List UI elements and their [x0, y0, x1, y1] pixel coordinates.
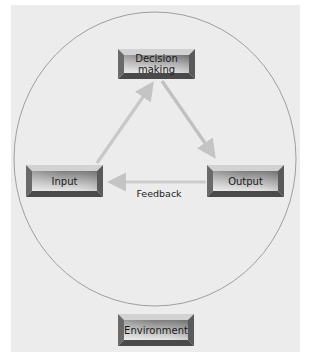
- environment-label: Environment: [118, 325, 194, 336]
- decision-making-label: Decision making: [118, 53, 195, 75]
- feedback-label: Feedback: [133, 188, 185, 199]
- input-node: Input: [26, 165, 103, 197]
- decision-making-label-line1: Decision: [135, 53, 178, 64]
- arrow-input-to-decision: [97, 84, 152, 163]
- environment-node: Environment: [118, 314, 194, 346]
- output-node: Output: [207, 165, 284, 197]
- arrow-decision-to-output: [162, 81, 214, 156]
- decision-making-node: Decision making: [118, 49, 195, 79]
- input-label: Input: [26, 176, 103, 187]
- output-label: Output: [207, 176, 284, 187]
- decision-making-label-line2: making: [138, 64, 175, 75]
